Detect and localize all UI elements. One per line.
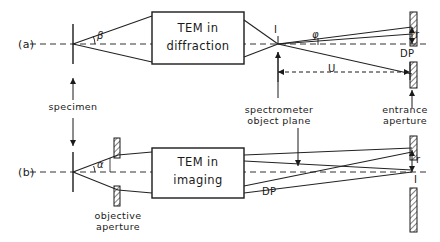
figure-canvas: (a) (b) TEM in diffraction TEM in imagin… [0,0,440,242]
crossover-label-a: I [274,24,277,35]
image-label-b: I [414,174,417,185]
dp-label-b: DP [262,186,277,197]
panel-tag-b: (b) [18,166,35,179]
entrance-caption-line2: aperture [372,115,438,126]
ray-b-out-1 [244,148,412,155]
ray-b-lower-mid [118,190,152,193]
tem-box-a-line2: diffraction [152,39,244,54]
dp-label-a: DP [400,48,415,59]
ray-b-lower-in [73,172,118,190]
radius-label-a: r [415,29,420,40]
objective-aperture-lower [114,186,120,206]
angle-arc-beta [93,36,95,44]
panel-tag-a: (a) [18,38,35,51]
spectrometer-caption-line1: spectrometer [230,104,328,115]
tem-box-b-line1: TEM in [152,155,244,170]
angle-label-beta: β [97,30,104,41]
tem-box-b-line2: imaging [152,173,244,188]
entrance-aperture-b-lower [410,188,417,232]
objective-aperture-caption-line2: aperture [83,221,153,232]
ray-a-div-lower [278,44,412,74]
radius-label-b: r [416,154,421,165]
ray-a-out-lower [244,44,278,57]
tem-box-a [152,12,244,64]
ray-b-upper-in [73,155,118,172]
specimen-caption: specimen [33,101,113,112]
entrance-caption-line1: entrance [372,104,438,115]
angle-label-alpha: α [97,159,104,170]
objective-aperture-caption-line1: objective [83,210,153,221]
spectrometer-caption-line2: object plane [230,115,328,126]
ray-b-upper-mid [118,152,152,155]
angle-arc-alpha [94,166,95,172]
u-label: U [328,63,336,74]
ray-a-out-upper [244,20,278,44]
angle-label-phi: φ [312,29,319,40]
entrance-aperture-a-lower [410,62,417,88]
ray-a-upper-in [73,16,152,44]
tem-box-a-line1: TEM in [152,21,244,36]
ray-a-lower-in [73,44,152,62]
